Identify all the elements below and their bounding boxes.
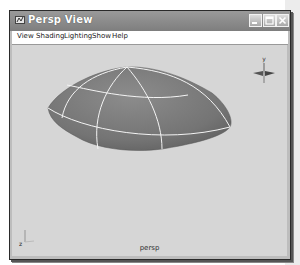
window-title: Persp View (28, 14, 93, 25)
persp-view-window: Persp View View Shading Lighting Show He… (9, 10, 291, 260)
minimize-button[interactable] (249, 14, 262, 27)
close-icon (277, 15, 288, 26)
minimize-icon (250, 15, 261, 26)
view-axis-gizmo[interactable]: y (249, 55, 279, 85)
menu-shading[interactable]: Shading (36, 32, 64, 40)
y-axis-label: y (262, 55, 266, 63)
maximize-button[interactable] (263, 14, 276, 27)
maximize-icon (264, 15, 275, 26)
maya-view-icon (15, 15, 25, 25)
title-bar[interactable]: Persp View (10, 11, 290, 31)
3d-viewport[interactable]: y z persp (12, 45, 287, 256)
menu-bar: View Shading Lighting Show Help (12, 31, 288, 45)
menu-lighting[interactable]: Lighting (64, 32, 92, 40)
menu-view[interactable]: View (17, 32, 34, 40)
camera-label: persp (12, 244, 287, 252)
close-button[interactable] (276, 14, 289, 27)
menu-help[interactable]: Help (112, 32, 128, 40)
nurbs-surface-object[interactable] (12, 45, 289, 257)
menu-show[interactable]: Show (92, 32, 111, 40)
